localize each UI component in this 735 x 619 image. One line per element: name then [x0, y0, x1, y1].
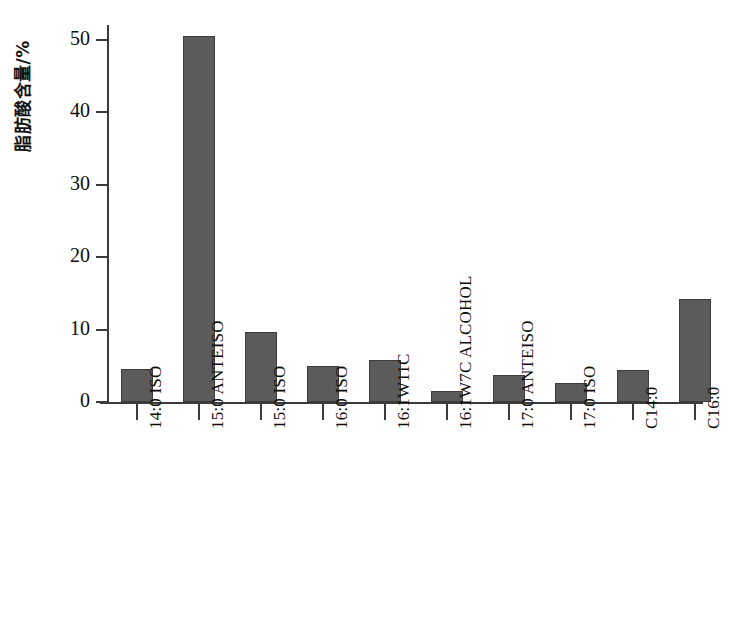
- y-axis-tick-label: 50: [50, 28, 90, 48]
- x-axis-tick-label: C14:0: [641, 219, 663, 429]
- y-axis-tick-label: 0: [50, 390, 90, 410]
- y-axis-tick-label: 30: [50, 173, 90, 193]
- x-axis-tick-label: 16:1W7C ALCOHOL: [455, 219, 477, 429]
- x-axis-tick-label: 15:0 ANTEISO: [207, 219, 229, 429]
- y-axis-line: [107, 25, 109, 403]
- x-axis-tick: [136, 404, 138, 420]
- y-axis-tick: 10: [96, 329, 107, 331]
- bar-chart-figure: 脂肪酸含量/% 01020304050 14:0 ISO15:0 ANTEISO…: [0, 0, 735, 619]
- x-axis-tick-label: 17:0 ISO: [579, 219, 601, 429]
- y-axis-tick: 0: [96, 401, 107, 403]
- x-axis-tick: [322, 404, 324, 420]
- plot-area: 01020304050 14:0 ISO15:0 ANTEISO15:0 ISO…: [107, 25, 703, 403]
- x-axis-tick-label: 17:0 ANTEISO: [517, 219, 539, 429]
- y-axis-tick-label: 10: [50, 318, 90, 338]
- x-axis-tick: [198, 404, 200, 420]
- x-axis-tick: [446, 404, 448, 420]
- y-axis-tick-label: 40: [50, 100, 90, 120]
- x-axis-tick: [570, 404, 572, 420]
- x-axis-tick: [632, 404, 634, 420]
- y-axis-tick: 50: [96, 39, 107, 41]
- y-axis-tick: 20: [96, 256, 107, 258]
- x-axis-tick-label: 16:0 ISO: [331, 219, 353, 429]
- x-axis-tick-label: C16:0: [703, 219, 725, 429]
- y-axis-tick-label: 20: [50, 245, 90, 265]
- x-axis-tick: [384, 404, 386, 420]
- x-axis-tick: [508, 404, 510, 420]
- x-axis-tick: [260, 404, 262, 420]
- x-axis-tick-label: 15:0 ISO: [269, 219, 291, 429]
- y-axis-tick: 30: [96, 184, 107, 186]
- x-axis-tick-label: 14:0 ISO: [145, 219, 167, 429]
- x-axis-tick-label: 16:1W11C: [393, 219, 415, 429]
- y-axis-title: 脂肪酸含量/%: [10, 16, 36, 176]
- y-axis-tick: 40: [96, 111, 107, 113]
- x-axis-tick: [694, 404, 696, 420]
